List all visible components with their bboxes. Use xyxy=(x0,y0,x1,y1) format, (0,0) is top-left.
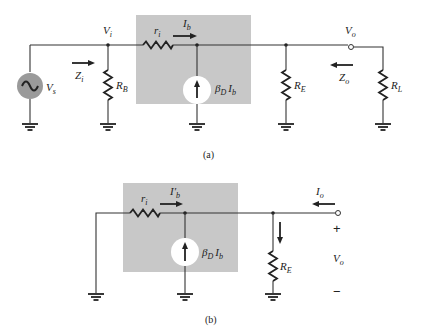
label-re-a: RE xyxy=(293,79,306,94)
ac-voltage-source-icon xyxy=(17,45,43,130)
resistor-rb-icon xyxy=(100,45,116,130)
io-arrow-icon xyxy=(312,201,335,207)
minus-sign: − xyxy=(333,284,341,299)
plus-sign: + xyxy=(333,221,341,236)
ground-icon xyxy=(88,294,104,300)
label-re-b: RE xyxy=(279,260,292,275)
label-io: Io xyxy=(315,185,324,200)
label-vo-a: Vo xyxy=(345,24,356,39)
resistor-re-b-icon xyxy=(265,213,281,300)
label-vo-b: Vo xyxy=(333,252,344,267)
re-current-arrow-icon xyxy=(277,222,283,244)
resistor-re-icon xyxy=(278,45,294,130)
vo-terminal-b xyxy=(336,211,341,216)
circuit-a: Vs Vi RB Zi ri Ib xyxy=(17,15,403,161)
vo-terminal-a xyxy=(349,45,354,50)
zi-arrow-icon xyxy=(72,60,95,66)
caption-a: (a) xyxy=(203,149,214,161)
zo-arrow-icon xyxy=(330,62,353,68)
label-vs: Vs xyxy=(46,81,56,96)
label-rb: RB xyxy=(115,79,128,94)
caption-b: (b) xyxy=(205,314,217,326)
circuit-diagram: Vs Vi RB Zi ri Ib xyxy=(0,0,421,331)
label-zo: Zo xyxy=(339,71,349,86)
ground-icon xyxy=(22,124,38,130)
load-wire-a xyxy=(354,47,383,70)
label-zi: Zi xyxy=(75,69,83,84)
circuit-figure: Vs Vi RB Zi ri Ib xyxy=(0,0,421,331)
resistor-rl-icon xyxy=(375,70,391,130)
label-rl: RL xyxy=(390,79,403,94)
label-vi: Vi xyxy=(103,24,112,39)
circuit-b: ri I′b βDIb RE xyxy=(88,183,344,326)
